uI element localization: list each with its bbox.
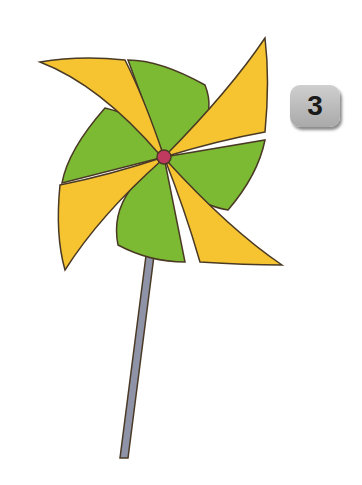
pinwheel-illustration (0, 0, 362, 485)
number-badge: 3 (290, 85, 340, 127)
pinwheel-stick (120, 240, 156, 458)
badge-number: 3 (307, 90, 323, 122)
pinwheel-hub (157, 150, 171, 164)
